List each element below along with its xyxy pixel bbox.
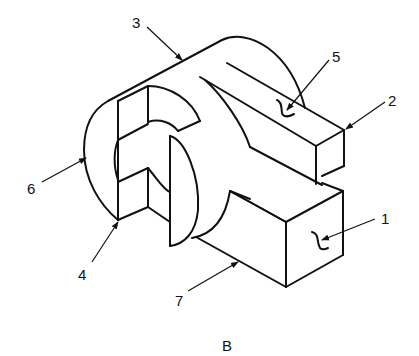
callout-5: 5 [332, 48, 340, 65]
texture-mark-5 [277, 100, 294, 117]
leader-7 [188, 262, 238, 291]
texture-mark-1 [312, 232, 328, 249]
callout-labels: 1 2 3 4 5 6 7 B [27, 14, 396, 354]
callout-2: 2 [388, 92, 396, 109]
leader-lines [42, 27, 385, 291]
leader-4 [92, 222, 118, 262]
front-flange [84, 86, 250, 246]
figure-caption: B [222, 337, 232, 354]
callout-1: 1 [381, 210, 389, 227]
callout-3: 3 [132, 14, 140, 31]
cylinder-body [108, 37, 344, 185]
bar-part [316, 130, 344, 184]
leader-3 [147, 27, 182, 60]
block-part [196, 183, 343, 287]
diagram-canvas: 1 2 3 4 5 6 7 B [0, 0, 419, 356]
callout-4: 4 [78, 266, 86, 283]
callout-6: 6 [27, 180, 35, 197]
leader-6 [42, 158, 86, 182]
leader-5 [287, 60, 329, 110]
isometric-diagram: 1 2 3 4 5 6 7 B [0, 0, 419, 356]
leader-1 [322, 219, 375, 240]
leader-2 [346, 102, 385, 129]
callout-7: 7 [175, 292, 183, 309]
